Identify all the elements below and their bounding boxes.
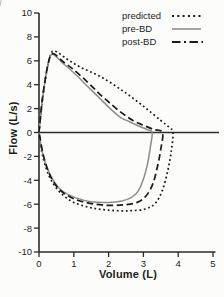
legend-item-post-bd: post-BD xyxy=(122,36,204,47)
y-tick-label: 6 xyxy=(27,55,32,66)
y-tick-label: 10 xyxy=(21,7,32,18)
flow-volume-loop-figure: 1086420-2-4-6-8-10012345 Flow (L/s) Volu… xyxy=(0,0,224,297)
y-tick-label: 2 xyxy=(27,103,32,114)
y-tick-label: 4 xyxy=(27,79,32,90)
series-post-BD-curve xyxy=(39,54,163,206)
legend-item-predicted: predicted xyxy=(122,10,204,21)
y-tick-label: 0 xyxy=(27,127,32,138)
legend-item-pre-bd: pre-BD xyxy=(122,23,204,34)
legend-label-post-bd: post-BD xyxy=(122,36,169,47)
legend: predicted pre-BD post-BD xyxy=(122,10,204,47)
y-tick-label: -2 xyxy=(24,151,32,162)
x-axis-title: Volume (L) xyxy=(40,268,216,280)
dashed-line-icon xyxy=(171,39,204,45)
legend-label-pre-bd: pre-BD xyxy=(122,23,169,34)
y-tick-label: 8 xyxy=(27,31,32,42)
dotted-line-icon xyxy=(171,13,204,19)
y-axis-title: Flow (L/s) xyxy=(7,101,19,154)
legend-label-predicted: predicted xyxy=(122,10,169,21)
y-tick-label: -10 xyxy=(18,246,32,257)
y-tick-label: -4 xyxy=(24,175,32,186)
solid-line-icon xyxy=(171,26,204,32)
series-predicted-curve xyxy=(39,51,173,211)
y-tick-label: -6 xyxy=(24,199,32,210)
y-tick-label: -8 xyxy=(24,223,32,234)
series-pre-BD-curve xyxy=(39,54,152,202)
